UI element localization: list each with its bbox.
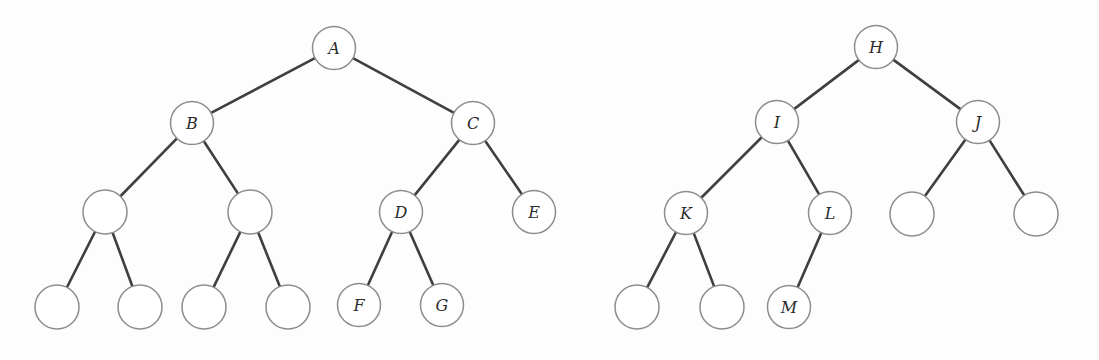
tree-node-unlabeled[interactable]	[266, 285, 310, 329]
tree-node-label: K	[679, 204, 693, 223]
tree-node-label: F	[352, 296, 365, 315]
tree-node-unlabeled[interactable]	[118, 285, 162, 329]
tree-edge	[693, 232, 714, 287]
tree-edge	[409, 231, 433, 286]
tree-node-label: A	[326, 39, 340, 58]
tree-node-unlabeled[interactable]	[182, 285, 226, 329]
tree-node-circle[interactable]	[228, 190, 272, 234]
tree-node-circle[interactable]	[182, 285, 226, 329]
tree-node-circle[interactable]	[35, 285, 79, 329]
tree-node-C[interactable]: C	[452, 102, 495, 145]
tree-node-A[interactable]: A	[313, 27, 356, 70]
tree-edge	[210, 58, 316, 114]
tree-node-K[interactable]: K	[665, 192, 708, 235]
tree-edge	[797, 232, 822, 288]
tree-node-E[interactable]: E	[513, 191, 556, 234]
tree-edge	[647, 231, 677, 288]
tree-node-label: G	[436, 296, 449, 315]
tree-node-label: L	[824, 204, 836, 223]
tree-edge	[367, 231, 392, 287]
tree-node-M[interactable]: M	[768, 286, 811, 329]
tree-node-circle[interactable]	[266, 285, 310, 329]
tree-node-unlabeled[interactable]	[83, 190, 127, 234]
tree-edge	[414, 139, 460, 196]
tree-node-circle[interactable]	[1014, 192, 1058, 236]
tree-node-circle[interactable]	[615, 285, 659, 329]
tree-node-unlabeled[interactable]	[228, 190, 272, 234]
nodes-layer: ABCDEFGHIJKLM	[35, 26, 1058, 330]
tree-node-unlabeled[interactable]	[890, 192, 934, 236]
edges-layer	[66, 58, 1024, 289]
tree-edge	[203, 140, 238, 194]
tree-node-H[interactable]: H	[855, 26, 898, 69]
tree-edge	[787, 140, 819, 196]
tree-node-F[interactable]: F	[338, 284, 381, 327]
tree-node-unlabeled[interactable]	[615, 285, 659, 329]
tree-node-G[interactable]: G	[421, 284, 464, 327]
tree-node-circle[interactable]	[890, 192, 934, 236]
tree-edge	[112, 232, 132, 288]
tree-node-label: B	[185, 114, 198, 133]
tree-node-circle[interactable]	[118, 285, 162, 329]
tree-edge	[213, 231, 241, 288]
tree-diagram-canvas: ABCDEFGHIJKLM	[0, 0, 1099, 360]
tree-edge	[793, 59, 859, 109]
tree-edge-group-right-tree	[647, 59, 1025, 288]
tree-node-L[interactable]: L	[809, 192, 852, 235]
tree-edge	[893, 59, 962, 110]
tree-edge	[352, 58, 455, 114]
tree-node-circle[interactable]	[83, 190, 127, 234]
tree-edge-group-left-tree	[66, 58, 522, 289]
tree-node-label: D	[394, 203, 408, 222]
tree-edge	[66, 231, 95, 289]
tree-node-label: I	[773, 113, 781, 132]
tree-node-unlabeled[interactable]	[35, 285, 79, 329]
tree-node-group-right-tree: HIJKLM	[615, 26, 1058, 330]
tree-node-I[interactable]: I	[756, 101, 799, 144]
tree-edge	[485, 140, 523, 195]
tree-node-group-left-tree: ABCDEFG	[35, 27, 556, 330]
tree-node-unlabeled[interactable]	[700, 285, 744, 329]
tree-edge	[989, 139, 1025, 196]
tree-node-label: C	[467, 114, 479, 133]
tree-node-label: M	[780, 298, 798, 317]
tree-diagram-figure: ABCDEFGHIJKLM	[0, 0, 1099, 360]
tree-node-J[interactable]: J	[957, 101, 1000, 144]
tree-node-B[interactable]: B	[171, 102, 214, 145]
tree-edge	[258, 232, 280, 288]
tree-edge	[120, 138, 178, 197]
tree-node-label: H	[868, 38, 884, 57]
tree-node-circle[interactable]	[700, 285, 744, 329]
tree-node-label: E	[527, 203, 540, 222]
tree-edge	[701, 137, 763, 199]
tree-edge	[924, 139, 966, 197]
tree-node-D[interactable]: D	[380, 191, 423, 234]
tree-node-unlabeled[interactable]	[1014, 192, 1058, 236]
